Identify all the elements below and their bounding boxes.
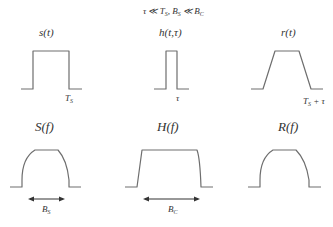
channel-bandwidth-label: BC xyxy=(168,204,179,215)
arrowhead-left-icon xyxy=(28,197,34,202)
signal-time-label: s(t) xyxy=(39,26,54,39)
channel-delay-tick: τ xyxy=(176,93,180,103)
signal-freq-plot: S(f) BS xyxy=(10,119,81,215)
rect-pulse-channel xyxy=(154,51,189,89)
trapezoid-received xyxy=(251,51,323,89)
signal-duration-tick: TS xyxy=(65,93,73,104)
received-duration-tick: TS + τ xyxy=(303,96,326,107)
channel-freq-plot: H(f) BC xyxy=(125,119,213,215)
received-freq-label: R(f) xyxy=(277,119,298,134)
signal-freq-label: S(f) xyxy=(35,119,54,134)
spectrum-received xyxy=(248,150,321,187)
spectrum-channel xyxy=(125,150,213,187)
arrowhead-right-icon xyxy=(194,197,200,202)
channel-time-plot: h(t,τ) τ xyxy=(154,26,189,103)
arrowhead-right-icon xyxy=(59,197,65,202)
arrowhead-left-icon xyxy=(143,197,149,202)
channel-freq-label: H(f) xyxy=(156,119,179,134)
received-freq-plot: R(f) xyxy=(248,119,321,187)
received-time-plot: r(t) TS + τ xyxy=(251,26,326,107)
received-time-label: r(t) xyxy=(281,26,296,39)
channel-time-label: h(t,τ) xyxy=(159,26,182,39)
diagram-canvas: τ ≪ TS, BS ≪ BC s(t) TS h(t,τ) τ r(t) TS… xyxy=(0,0,333,227)
rect-pulse-signal xyxy=(21,51,82,89)
spectrum-signal xyxy=(10,150,81,187)
signal-time-plot: s(t) TS xyxy=(21,26,82,104)
signal-bandwidth-label: BS xyxy=(42,204,51,215)
condition-text: τ ≪ TS, BS ≪ BC xyxy=(143,6,205,17)
